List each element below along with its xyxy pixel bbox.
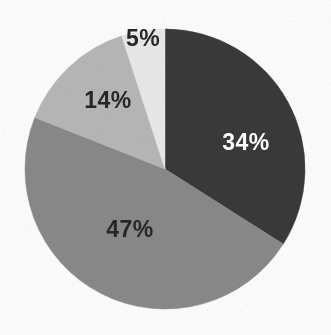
pie-slice-label-2: 47%: [106, 218, 154, 241]
pie-slices: [25, 29, 305, 309]
pie-slice-label-1: 34%: [222, 131, 270, 154]
pie-chart-figure: 34% 47% 14% 5%: [0, 0, 331, 335]
pie-chart-svg: [0, 0, 331, 335]
pie-slice-label-3: 14%: [84, 89, 132, 112]
pie-slice-label-4: 5%: [126, 27, 160, 50]
